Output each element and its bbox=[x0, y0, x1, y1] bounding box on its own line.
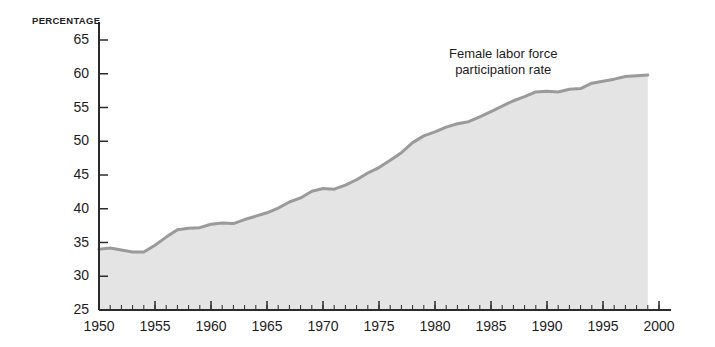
x-axis-tick-label: 1955 bbox=[125, 318, 185, 334]
x-axis-tick-label: 1960 bbox=[181, 318, 241, 334]
x-axis-tick-label: 1980 bbox=[405, 318, 465, 334]
series-annotation-female-lfp: Female labor force participation rate bbox=[403, 46, 603, 79]
y-axis-tick-label: 25 bbox=[45, 301, 89, 317]
y-axis-unit-label: PERCENTAGE bbox=[32, 15, 100, 26]
y-axis-tick-label: 35 bbox=[45, 234, 89, 250]
x-axis-tick-label: 1950 bbox=[69, 318, 129, 334]
x-axis-tick-label: 2000 bbox=[629, 318, 689, 334]
y-axis-tick-label: 45 bbox=[45, 166, 89, 182]
x-axis-tick-label: 1975 bbox=[349, 318, 409, 334]
y-axis-tick-label: 55 bbox=[45, 99, 89, 115]
x-axis-tick-label: 1970 bbox=[293, 318, 353, 334]
y-axis-tick-label: 40 bbox=[45, 200, 89, 216]
series-annotation-line-1: Female labor force bbox=[403, 46, 603, 62]
y-axis-ticks bbox=[99, 40, 108, 276]
x-axis-tick-label: 1995 bbox=[573, 318, 633, 334]
x-axis-tick-label: 1985 bbox=[461, 318, 521, 334]
area-series-group bbox=[99, 75, 648, 310]
y-axis-tick-label: 65 bbox=[45, 31, 89, 47]
x-axis-tick-label: 1990 bbox=[517, 318, 577, 334]
area-fill-female-lfp bbox=[99, 75, 648, 310]
series-annotation-line-2: participation rate bbox=[403, 62, 603, 78]
chart-container: PERCENTAGE 656055504540353025 1950195519… bbox=[0, 0, 715, 347]
chart-plot-area bbox=[0, 0, 715, 347]
y-axis-tick-label: 50 bbox=[45, 132, 89, 148]
y-axis-tick-label: 30 bbox=[45, 267, 89, 283]
y-axis-tick-label: 60 bbox=[45, 65, 89, 81]
x-axis-tick-label: 1965 bbox=[237, 318, 297, 334]
